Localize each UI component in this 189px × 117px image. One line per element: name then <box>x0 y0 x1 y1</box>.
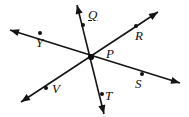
label-q: Q <box>88 8 97 21</box>
point-dot-q <box>81 23 85 27</box>
point-dot-t <box>100 92 104 96</box>
arrowhead-lower-left-V <box>21 94 31 102</box>
label-v: V <box>52 82 60 95</box>
arrowhead-upper-left-Y <box>10 29 20 36</box>
label-s: S <box>135 77 142 90</box>
label-r: R <box>135 29 143 42</box>
arrowhead-lower-right-S <box>170 77 180 84</box>
label-y: Y <box>36 36 43 49</box>
arrowhead-upper-right-R <box>148 12 158 20</box>
label-p: P <box>106 47 114 60</box>
label-t: T <box>105 89 112 102</box>
point-dot-v <box>44 86 48 90</box>
geometry-figure: QRPYSVT <box>0 0 189 117</box>
intersection-point-p <box>88 54 94 60</box>
